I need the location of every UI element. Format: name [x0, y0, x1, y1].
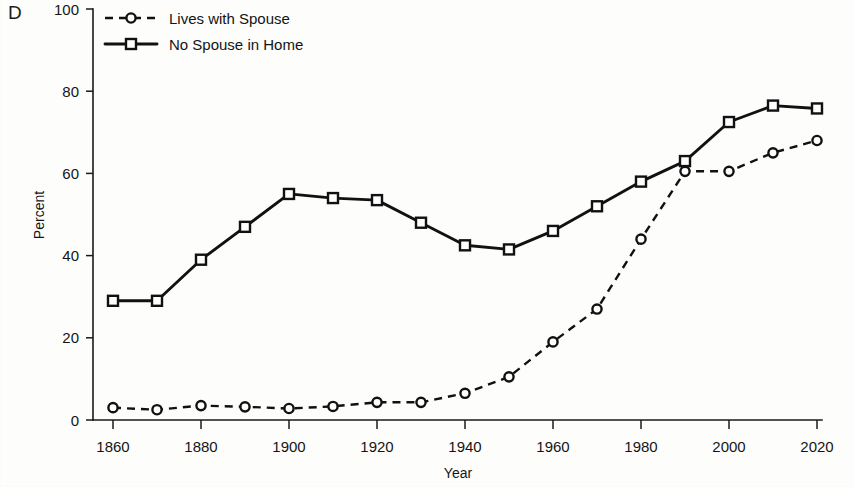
- data-point-marker: [196, 401, 205, 410]
- data-point-marker: [416, 398, 425, 407]
- data-point-marker: [768, 101, 778, 111]
- x-tick-label: 1940: [448, 438, 481, 455]
- legend-marker-circle: [126, 13, 135, 22]
- data-point-marker: [152, 296, 162, 306]
- data-point-marker: [812, 103, 822, 113]
- y-tick-label: 100: [54, 1, 79, 18]
- data-point-marker: [460, 240, 470, 250]
- legend-marker-square: [126, 39, 136, 49]
- x-tick-label: 1860: [96, 438, 129, 455]
- data-point-marker: [152, 405, 161, 414]
- data-point-marker: [636, 235, 645, 244]
- data-point-marker: [812, 136, 821, 145]
- data-point-marker: [328, 193, 338, 203]
- x-tick-label: 2020: [800, 438, 833, 455]
- series-lives-with-spouse: [108, 136, 821, 414]
- series-line: [113, 141, 817, 410]
- data-point-marker: [416, 218, 426, 228]
- data-point-marker: [328, 402, 337, 411]
- y-axis-ticks: 020406080100: [54, 1, 93, 429]
- y-tick-label: 0: [71, 412, 79, 429]
- chart-figure: D 020406080100 1860188019001920194019601…: [0, 0, 854, 487]
- data-point-marker: [240, 402, 249, 411]
- series-line: [113, 106, 817, 301]
- data-point-marker: [108, 403, 117, 412]
- x-tick-label: 1880: [184, 438, 217, 455]
- data-point-marker: [548, 337, 557, 346]
- data-point-marker: [284, 404, 293, 413]
- data-point-marker: [680, 156, 690, 166]
- chart-legend: Lives with SpouseNo Spouse in Home: [105, 10, 303, 53]
- y-tick-label: 60: [62, 165, 79, 182]
- data-series-layer: [108, 101, 822, 415]
- line-chart-plot: 020406080100 186018801900192019401960198…: [0, 0, 854, 487]
- legend-item[interactable]: No Spouse in Home: [105, 36, 303, 53]
- data-point-marker: [504, 244, 514, 254]
- x-tick-label: 1960: [536, 438, 569, 455]
- x-axis-title: Year: [444, 465, 473, 481]
- data-point-marker: [768, 148, 777, 157]
- x-tick-label: 1920: [360, 438, 393, 455]
- data-point-marker: [240, 222, 250, 232]
- data-point-marker: [724, 167, 733, 176]
- x-tick-label: 2000: [712, 438, 745, 455]
- x-axis-ticks: 186018801900192019401960198020002020: [96, 420, 833, 455]
- data-point-marker: [680, 167, 689, 176]
- y-tick-label: 20: [62, 329, 79, 346]
- series-no-spouse-in-home: [108, 101, 822, 306]
- data-point-marker: [108, 296, 118, 306]
- data-point-marker: [592, 304, 601, 313]
- y-tick-label: 40: [62, 247, 79, 264]
- x-tick-label: 1900: [272, 438, 305, 455]
- data-point-marker: [372, 398, 381, 407]
- data-point-marker: [592, 201, 602, 211]
- x-tick-label: 1980: [624, 438, 657, 455]
- data-point-marker: [284, 189, 294, 199]
- data-point-marker: [196, 255, 206, 265]
- legend-item-label: No Spouse in Home: [169, 36, 303, 53]
- data-point-marker: [724, 117, 734, 127]
- data-point-marker: [504, 372, 513, 381]
- data-point-marker: [548, 226, 558, 236]
- y-axis-title: Percent: [31, 191, 47, 239]
- data-point-marker: [372, 195, 382, 205]
- data-point-marker: [460, 389, 469, 398]
- legend-item[interactable]: Lives with Spouse: [105, 10, 290, 27]
- data-point-marker: [636, 177, 646, 187]
- legend-item-label: Lives with Spouse: [169, 10, 290, 27]
- y-tick-label: 80: [62, 83, 79, 100]
